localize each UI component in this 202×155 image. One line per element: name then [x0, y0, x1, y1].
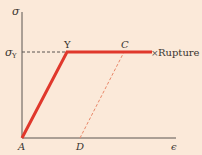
point-y-label: Y [63, 39, 71, 50]
unloading-dashed-line [80, 52, 124, 138]
x-axis-label: ϵ [171, 141, 177, 152]
yield-stress-subscript: Y [11, 52, 17, 60]
rupture-label: Rupture [158, 47, 200, 58]
point-a-label: A [17, 141, 25, 152]
stress-strain-curve [22, 52, 152, 138]
point-d-label: D [75, 141, 84, 152]
point-c-label: C [121, 39, 129, 50]
y-axis-label: σ [12, 5, 20, 18]
stress-strain-diagram: σ σ Y Y C A D ϵ × Rupture [0, 0, 202, 155]
